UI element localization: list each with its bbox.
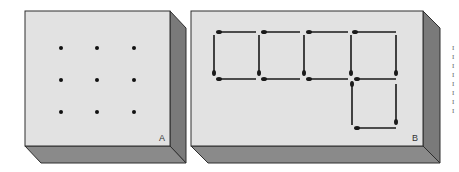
margin-text-fragment: I bbox=[452, 107, 455, 115]
match-head-icon bbox=[354, 77, 360, 81]
grid-dot bbox=[59, 46, 63, 50]
match-head-icon bbox=[352, 30, 358, 34]
match-head-icon bbox=[216, 77, 222, 81]
grid-dot bbox=[132, 78, 136, 82]
match-head-icon bbox=[394, 119, 398, 125]
grid-dot bbox=[132, 110, 136, 114]
panel-label: A bbox=[159, 133, 165, 143]
panel-label: B bbox=[412, 133, 418, 143]
match-head-icon bbox=[394, 70, 398, 76]
match-head-icon bbox=[306, 77, 312, 81]
match-head-icon bbox=[257, 70, 261, 76]
panel-bottom-face bbox=[25, 146, 186, 163]
match-head-icon bbox=[212, 70, 216, 76]
margin-text-fragment: I bbox=[452, 44, 455, 52]
panel-side-face bbox=[423, 11, 440, 163]
match-head-icon bbox=[261, 77, 267, 81]
match-head-icon bbox=[350, 81, 354, 87]
margin-text-fragment: I bbox=[452, 62, 455, 70]
match-head-icon bbox=[216, 30, 222, 34]
panel-bottom-face bbox=[191, 146, 440, 163]
panel-side-face bbox=[170, 11, 186, 163]
margin-text-fragment: I bbox=[452, 71, 455, 79]
match-head-icon bbox=[306, 30, 312, 34]
grid-dot bbox=[95, 46, 99, 50]
margin-text-fragment: I bbox=[452, 98, 455, 106]
matchstick-puzzle-figure: ABIIIIIIII bbox=[0, 0, 459, 172]
match-head-icon bbox=[354, 126, 360, 130]
panel-b: B bbox=[191, 11, 440, 163]
match-head-icon bbox=[349, 70, 353, 76]
match-head-icon bbox=[261, 30, 267, 34]
margin-text-fragment: I bbox=[452, 80, 455, 88]
margin-text-fragment: I bbox=[452, 89, 455, 97]
grid-dot bbox=[95, 110, 99, 114]
grid-dot bbox=[59, 78, 63, 82]
panel-a: A bbox=[25, 11, 186, 163]
grid-dot bbox=[132, 46, 136, 50]
grid-dot bbox=[95, 78, 99, 82]
match-head-icon bbox=[302, 70, 306, 76]
grid-dot bbox=[59, 110, 63, 114]
margin-text-fragment: I bbox=[452, 53, 455, 61]
